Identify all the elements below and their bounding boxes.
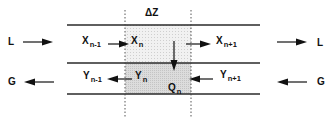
- arrow-left-icon: [24, 79, 54, 86]
- variable-symbol: Y: [83, 70, 90, 81]
- variable-subscript: n+1: [224, 40, 237, 49]
- arrow-left-icon: [189, 76, 213, 83]
- liquid-composition-prev: Xn-1: [82, 36, 101, 49]
- variable-subscript: n: [139, 40, 144, 49]
- segment-length-label: ΔZ: [145, 8, 158, 18]
- variable-subscript: n: [177, 87, 182, 96]
- liquid-in-label: L: [8, 37, 14, 47]
- arrow-left-icon: [277, 79, 307, 86]
- variable-symbol: X: [216, 35, 223, 46]
- variable-symbol: Y: [135, 70, 142, 81]
- gas-composition-current: Yn: [135, 71, 147, 84]
- gas-composition-next: Yn+1: [220, 70, 241, 83]
- variable-symbol: X: [131, 35, 138, 46]
- transfer-rate-label: Qn: [168, 83, 181, 96]
- arrow-right-icon: [277, 39, 307, 46]
- liquid-composition-current: Xn: [131, 36, 143, 49]
- variable-symbol: X: [82, 35, 89, 46]
- liquid-composition-next: Xn+1: [216, 36, 237, 49]
- liquid-out-label: L: [317, 38, 323, 48]
- variable-subscript: n-1: [90, 40, 101, 49]
- gas-out-label: G: [8, 77, 16, 87]
- variable-symbol: Y: [220, 69, 227, 80]
- variable-symbol: Q: [168, 82, 176, 93]
- variable-subscript: n+1: [228, 74, 241, 83]
- gas-composition-prev: Yn-1: [83, 71, 102, 84]
- diagram-canvas: [0, 0, 334, 125]
- gas-in-label: G: [317, 77, 325, 87]
- variable-subscript: n: [143, 75, 148, 84]
- arrow-right-icon: [23, 39, 53, 46]
- variable-subscript: n-1: [91, 75, 102, 84]
